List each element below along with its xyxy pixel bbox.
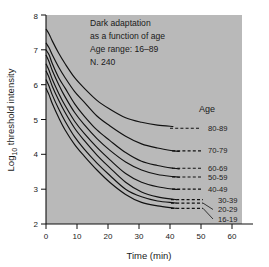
x-tick-label-60: 60 — [228, 232, 237, 241]
x-tick-label-10: 10 — [73, 232, 82, 241]
series-label-40-49: 40-49 — [208, 185, 227, 194]
x-axis-title: Time (min) — [126, 250, 171, 261]
series-label-20-29: 20-29 — [218, 205, 237, 214]
x-tick-label-20: 20 — [104, 232, 113, 241]
y-tick-label-8: 8 — [34, 12, 39, 21]
legend-title: Age — [199, 104, 215, 114]
dark-adaptation-chart-figure: 2 3 4 5 6 7 8 0 10 20 30 40 50 — [0, 0, 269, 267]
x-tick-label-0: 0 — [44, 232, 49, 241]
series-label-16-19: 16-19 — [218, 215, 237, 224]
y-axis-ticks — [41, 15, 46, 224]
series-label-60-69: 60-69 — [208, 164, 227, 173]
annotation-line-3: Age range: 16–89 — [90, 44, 159, 54]
series-label-70-79: 70-79 — [208, 146, 227, 155]
y-tick-label-6: 6 — [34, 81, 39, 90]
x-axis: 0 10 20 30 40 50 60 — [44, 224, 253, 241]
x-tick-label-50: 50 — [197, 232, 206, 241]
annotation-line-2: as a function of age — [90, 31, 165, 41]
y-tick-label-5: 5 — [34, 116, 39, 125]
svg-text:Log10 threshold intensity: Log10 threshold intensity — [5, 68, 18, 171]
annotation-line-4: N. 240 — [90, 57, 116, 67]
y-tick-label-7: 7 — [34, 46, 39, 55]
y-tick-label-2: 2 — [34, 220, 39, 229]
chart-canvas: 2 3 4 5 6 7 8 0 10 20 30 40 50 — [0, 0, 269, 267]
x-tick-label-40: 40 — [166, 232, 175, 241]
y-axis-title-main: Log — [5, 156, 16, 172]
x-axis-ticks — [46, 224, 232, 229]
y-tick-label-3: 3 — [34, 185, 39, 194]
y-tick-label-4: 4 — [34, 150, 39, 159]
y-axis-title-rest: threshold intensity — [5, 68, 16, 147]
x-tick-label-30: 30 — [135, 232, 144, 241]
series-label-80-89: 80-89 — [208, 124, 227, 133]
y-axis: 2 3 4 5 6 7 8 — [34, 12, 46, 230]
annotation-line-1: Dark adaptation — [90, 18, 151, 28]
series-label-30-39: 30-39 — [218, 196, 237, 205]
y-axis-title: Log10 threshold intensity — [5, 68, 18, 171]
y-axis-title-sub: 10 — [11, 148, 18, 156]
series-label-50-59: 50-59 — [208, 173, 227, 182]
